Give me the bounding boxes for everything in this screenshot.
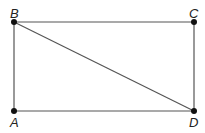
diagonal-bd	[14, 22, 194, 111]
segments	[14, 22, 194, 111]
label-b: B	[10, 6, 19, 21]
label-d: D	[189, 115, 198, 130]
point-d	[191, 108, 197, 114]
rectangle-diagram: B C A D	[0, 0, 205, 133]
label-a: A	[9, 115, 19, 130]
point-a	[11, 108, 17, 114]
label-c: C	[189, 6, 199, 21]
